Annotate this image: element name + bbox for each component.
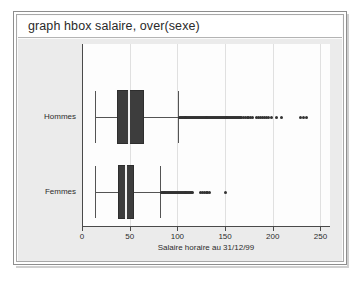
y-axis-line [82,44,83,226]
x-tick-label: 50 [115,232,145,241]
outlier-point [280,116,283,119]
whisker [144,117,178,118]
x-axis-line [82,226,330,227]
box [117,90,144,144]
x-tick-label: 150 [210,232,240,241]
whisker-cap [95,166,96,218]
whisker [95,117,117,118]
command-titlebar: graph hbox salaire, over(sexe) [18,16,342,38]
x-tick-label: 0 [67,232,97,241]
x-tick [273,227,274,231]
screenshot-page: graph hbox salaire, over(sexe) 050100150… [0,0,361,282]
median-line [128,90,130,144]
outlier-point [224,191,227,194]
x-tick [225,227,226,231]
whisker [95,192,118,193]
whisker-cap [95,91,96,143]
window-shadow-bottom [16,266,349,268]
y-category-label: Femmes [45,187,76,196]
outlier-point [191,191,194,194]
stata-command-text: graph hbox salaire, over(sexe) [28,19,200,33]
window-shadow-right [347,14,349,268]
x-tick-label: 200 [258,232,288,241]
whisker [134,192,160,193]
gridline [320,44,321,226]
gridline [225,44,226,226]
x-tick [82,227,83,231]
outlier-point [275,116,278,119]
x-tick [177,227,178,231]
outlier-point [208,191,211,194]
gridline [273,44,274,226]
median-line [125,165,127,219]
x-axis-title: Salaire horaire au 31/12/99 [82,243,330,252]
outlier-point [270,116,273,119]
x-tick [130,227,131,231]
outlier-point [251,116,254,119]
x-tick [320,227,321,231]
graph-canvas: 050100150200250 HommesFemmes Salaire hor… [18,39,342,261]
x-tick-label: 250 [305,232,335,241]
y-category-label: Hommes [44,112,76,121]
outlier-point [305,116,308,119]
x-tick-label: 100 [162,232,192,241]
